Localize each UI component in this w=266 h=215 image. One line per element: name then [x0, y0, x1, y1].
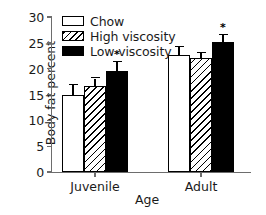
legend-label-low-viscosity: Low viscosity	[90, 44, 171, 59]
y-axis-label-container: Body fat percent	[0, 28, 16, 158]
error-bar-stem	[178, 47, 179, 55]
error-bar-cap	[69, 84, 78, 85]
significance-asterisk: *	[220, 23, 226, 32]
y-tick-label: 20	[28, 61, 44, 76]
y-tick-label: 15	[28, 87, 44, 102]
x-tick-mark	[94, 172, 95, 177]
y-tick-label: 25	[28, 35, 44, 50]
legend-item-chow: Chow	[62, 14, 176, 28]
bar-adult-low-viscosity	[212, 42, 234, 172]
error-bar-cap	[197, 52, 206, 53]
bar-adult-chow	[168, 55, 190, 172]
error-bar-cap	[175, 46, 184, 47]
error-bar-stem	[94, 79, 95, 86]
legend: Chow High viscosity Low viscosity	[62, 14, 176, 59]
x-axis-line	[51, 172, 251, 173]
legend-item-high-viscosity: High viscosity	[62, 29, 176, 43]
error-bar-stem	[200, 53, 201, 58]
bar-adult-high-viscosity	[190, 58, 212, 172]
error-bar-stem	[116, 62, 117, 70]
bar-juvenile-low-viscosity	[106, 71, 128, 172]
bar-juvenile-chow	[62, 95, 84, 173]
y-tick-label: 30	[28, 10, 44, 25]
error-bar-cap	[91, 77, 100, 78]
legend-item-low-viscosity: Low viscosity	[62, 44, 176, 58]
y-tick-label: 0	[36, 165, 44, 180]
y-tick-label: 5	[36, 139, 44, 154]
error-bar-stem	[72, 85, 73, 94]
x-tick-mark	[200, 172, 201, 177]
legend-label-chow: Chow	[90, 14, 124, 29]
legend-label-high-viscosity: High viscosity	[90, 29, 176, 44]
legend-swatch-low-viscosity-icon	[62, 46, 84, 56]
bar-juvenile-high-viscosity	[84, 86, 106, 172]
legend-swatch-chow-icon	[62, 16, 84, 26]
y-tick-label: 10	[28, 113, 44, 128]
x-axis-label: Age	[52, 192, 242, 207]
error-bar-stem	[222, 35, 223, 42]
body-fat-percent-bar-chart: Body fat percent 051015202530 ** Juvenil…	[0, 0, 266, 215]
legend-swatch-high-viscosity-icon	[62, 31, 84, 41]
